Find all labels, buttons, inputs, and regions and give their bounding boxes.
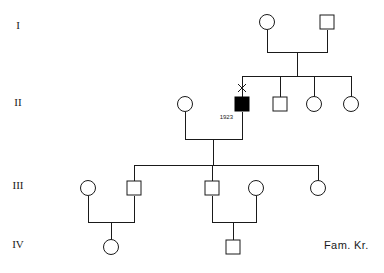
individual-III-3-male-unaffected[interactable] <box>205 181 219 195</box>
generation-label-iii: III <box>13 179 24 191</box>
generation-labels-layer: IIIIIIIV <box>12 19 24 250</box>
individual-I-1-female-unaffected[interactable] <box>260 15 275 30</box>
generation-label-iv: IV <box>12 238 24 250</box>
generation-label-ii: II <box>14 96 22 108</box>
individual-II-4-female-unaffected[interactable] <box>307 97 322 112</box>
individual-II-3-male-unaffected[interactable] <box>273 97 287 111</box>
pedigree-canvas: 1923 IIIIIIIV Fam. Kr. <box>0 0 384 273</box>
individual-symbols-layer <box>81 15 359 255</box>
family-caption: Fam. Kr. <box>324 239 369 251</box>
individual-III-2-male-unaffected[interactable] <box>127 181 141 195</box>
individual-II-2-male-affected[interactable] <box>235 97 249 111</box>
mating-line-mate-III-right <box>212 196 256 222</box>
mating-line-mate-I <box>267 30 327 52</box>
birth-year-label: 1923 <box>220 114 234 120</box>
connection-lines-layer <box>88 30 351 240</box>
generation-label-i: I <box>16 19 20 31</box>
mating-line-mate-III-left <box>88 196 134 222</box>
individual-I-2-male-unaffected[interactable] <box>320 15 334 29</box>
individual-III-4-female-unaffected[interactable] <box>249 181 264 196</box>
individual-II-5-female-unaffected[interactable] <box>344 97 359 112</box>
individual-II-1-female-unaffected[interactable] <box>178 97 193 112</box>
mating-line-mate-II <box>185 112 242 139</box>
individual-III-1-female-unaffected[interactable] <box>81 181 96 196</box>
individual-IV-1-female-unaffected[interactable] <box>104 240 119 255</box>
individual-IV-2-male-unaffected[interactable] <box>226 240 240 254</box>
pedigree-chart: 1923 IIIIIIIV Fam. Kr. <box>0 0 384 273</box>
individual-III-5-female-unaffected[interactable] <box>311 181 326 196</box>
